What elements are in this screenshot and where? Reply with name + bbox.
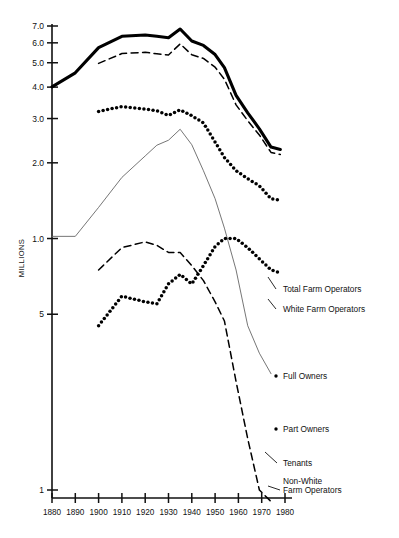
series-dot [244, 244, 248, 248]
series-dot [137, 299, 141, 303]
series-dot [248, 247, 252, 251]
series-dot [254, 182, 258, 186]
x-tick-label: 1980 [276, 508, 295, 517]
y-tick-label: 1 [39, 485, 44, 495]
series-dot [114, 302, 118, 306]
series-line [99, 44, 281, 154]
x-tick-label: 1880 [43, 508, 62, 517]
series-dot [174, 276, 178, 280]
series-dot [117, 299, 121, 303]
annotation-bullet [274, 374, 277, 377]
series-dot [191, 280, 195, 284]
series-dot [201, 265, 205, 269]
series-dot [201, 121, 205, 125]
series-dot [178, 273, 182, 277]
series-dot [206, 128, 210, 132]
annotation-leader [268, 277, 276, 289]
series-dot [160, 294, 164, 298]
series-dot [97, 324, 101, 328]
series-dot [105, 313, 109, 317]
series-line [52, 129, 271, 373]
series-dot [170, 279, 174, 283]
series-dot [233, 237, 237, 241]
series-dot [220, 239, 224, 243]
series-dot [111, 306, 115, 310]
series-total-farm-operators [52, 29, 280, 149]
series-dot [206, 257, 210, 261]
series-dot [128, 296, 132, 300]
series-dot [188, 281, 192, 285]
series-line [52, 29, 280, 149]
series-dot [162, 290, 166, 294]
series-dot [276, 198, 280, 202]
series-dot [156, 109, 160, 113]
series-dot [103, 317, 107, 321]
y-tick-label: 6.0 [32, 38, 44, 48]
series-dot [239, 172, 243, 176]
series-dot [220, 152, 224, 156]
y-tick-label: 5 [39, 309, 44, 319]
series-dot [177, 109, 181, 113]
annotation-label-part-owners: Part Owners [283, 424, 329, 434]
y-tick-label: 7.0 [32, 21, 44, 31]
series-dot [208, 253, 212, 257]
series-dot [151, 301, 155, 305]
series-dot [271, 269, 275, 273]
series-dot [211, 136, 215, 140]
series-dot [160, 111, 164, 115]
series-dot [115, 106, 119, 110]
annotation-label-nonwhite-line2: Farm Operators [283, 485, 342, 495]
x-tick-label: 1930 [159, 508, 178, 517]
annotation-bullet [274, 427, 277, 430]
series-dot [235, 170, 239, 174]
series-dot [142, 107, 146, 111]
series-dot [157, 298, 161, 302]
series-dot [199, 269, 203, 273]
series-dot [264, 191, 268, 195]
series-dot [251, 251, 255, 255]
series-dot [142, 300, 146, 304]
series-white-farm-operators [99, 44, 281, 154]
series-dot [119, 105, 123, 109]
series-dot [254, 254, 258, 258]
series-line [99, 242, 271, 502]
series-dot [133, 297, 137, 301]
series-dot [204, 124, 208, 128]
series-dot [213, 140, 217, 144]
series-dot [264, 263, 268, 267]
series-dot [218, 148, 222, 152]
series-dot [181, 275, 185, 279]
series-dot [268, 267, 272, 271]
series-dot [185, 278, 189, 282]
series-dot [164, 286, 168, 290]
series-dot [181, 109, 185, 113]
x-tick-label: 1970 [253, 508, 272, 517]
series-dot [271, 197, 275, 201]
series-dot [247, 177, 251, 181]
series-dot [197, 118, 201, 122]
annotation-label-full-owners: Full Owners [283, 371, 327, 381]
series-dot [276, 270, 280, 274]
series-tenants [52, 129, 271, 373]
series-dot [216, 144, 220, 148]
series-dot [258, 185, 262, 189]
series-dot [133, 106, 137, 110]
annotation-label-tenants: Tenants [283, 458, 312, 468]
series-dot [128, 106, 132, 110]
series-dot [185, 111, 189, 115]
y-axis-tick-labels: 7.06.05.04.03.02.01.051 [32, 21, 44, 495]
x-tick-label: 1920 [136, 508, 155, 517]
series-dot [250, 180, 254, 184]
series-dot [138, 107, 142, 111]
y-tick-label: 4.0 [32, 82, 44, 92]
series-dot [261, 188, 265, 192]
series-dot [97, 110, 101, 114]
annotation-leader [265, 452, 277, 463]
series-dot [216, 242, 220, 246]
series-part-owners [97, 237, 279, 328]
annotation-label-white-farm-operators: White Farm Operators [283, 304, 365, 314]
series-dot [237, 239, 241, 243]
series-dot [211, 249, 215, 253]
series-dot [169, 113, 173, 117]
annotation-leader [268, 486, 280, 490]
